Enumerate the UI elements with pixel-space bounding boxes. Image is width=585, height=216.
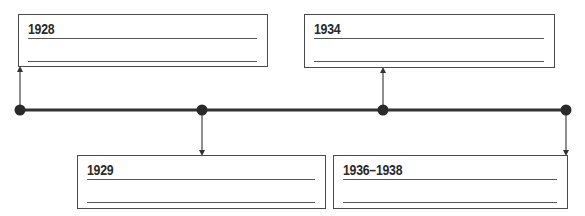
- timeline-dot-1928: [15, 105, 26, 116]
- event-box-1928: 1928: [18, 14, 268, 67]
- answer-line[interactable]: [28, 61, 257, 62]
- timeline-dot-1929: [197, 105, 208, 116]
- event-year: 1936–1938: [343, 162, 402, 178]
- timeline-dot-1934: [378, 105, 389, 116]
- answer-line[interactable]: [87, 179, 315, 180]
- event-box-1929: 1929: [77, 155, 326, 209]
- answer-line[interactable]: [87, 202, 315, 203]
- event-year: 1929: [87, 162, 113, 178]
- event-box-1936-1938: 1936–1938: [333, 155, 568, 209]
- event-year: 1928: [28, 21, 54, 37]
- answer-line[interactable]: [314, 38, 544, 39]
- answer-line[interactable]: [314, 61, 544, 62]
- answer-line[interactable]: [28, 38, 257, 39]
- event-box-1934: 1934: [304, 14, 555, 68]
- answer-line[interactable]: [343, 202, 557, 203]
- answer-line[interactable]: [343, 179, 557, 180]
- event-year: 1934: [314, 21, 340, 37]
- timeline-dot-1936-1938: [561, 105, 572, 116]
